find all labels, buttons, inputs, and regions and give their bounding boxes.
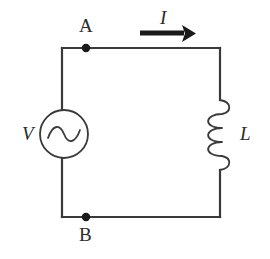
node-label-b: B: [79, 225, 92, 244]
circuit-diagram: A B V L I: [0, 0, 270, 259]
source-label-v: V: [22, 124, 34, 143]
inductor-label-l: L: [240, 124, 251, 143]
node-dot-a: [82, 44, 90, 52]
current-label-i: I: [160, 8, 166, 27]
circuit-schematic-canvas: [0, 0, 270, 259]
inductor-coil-icon: [208, 100, 229, 170]
node-label-a: A: [79, 16, 93, 35]
current-arrow-head: [182, 25, 196, 42]
node-dot-b: [82, 213, 90, 221]
